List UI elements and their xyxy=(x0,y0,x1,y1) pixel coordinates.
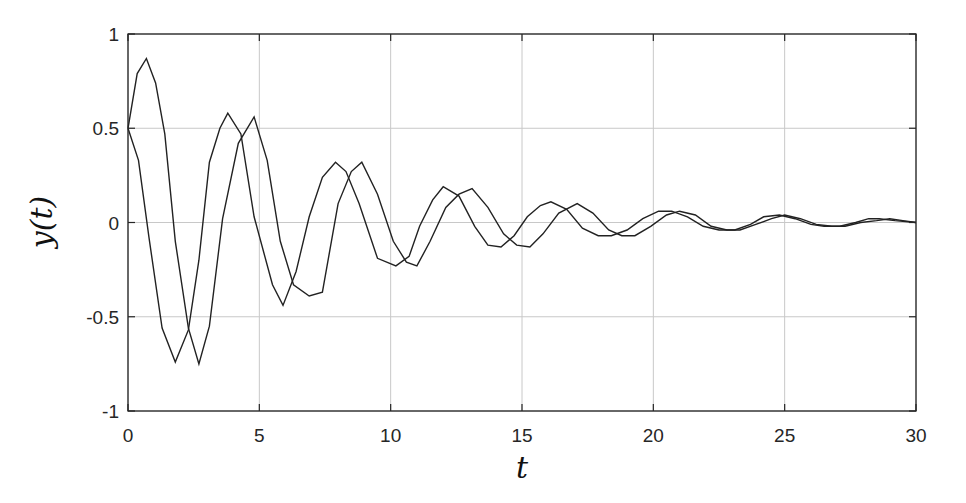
x-tick-label: 20 xyxy=(643,425,664,446)
y-axis-title: y(t) xyxy=(24,196,59,250)
y-tick-label: -1 xyxy=(102,401,119,422)
x-axis-title: t xyxy=(516,450,529,485)
x-tick-label: 15 xyxy=(511,425,532,446)
y-tick-label: -0.5 xyxy=(86,307,119,328)
y-tick-label: 0 xyxy=(108,213,119,234)
y-tick-label: 1 xyxy=(108,24,119,45)
y-tick-label: 0.5 xyxy=(93,118,119,139)
x-tick-label: 0 xyxy=(123,425,134,446)
x-tick-label: 5 xyxy=(254,425,265,446)
grid-lines xyxy=(128,34,916,411)
x-tick-label: 25 xyxy=(774,425,795,446)
x-axis-tick-labels: 051015202530 xyxy=(123,425,927,446)
y-axis-tick-labels: -1-0.500.51 xyxy=(86,24,119,422)
x-tick-label: 10 xyxy=(380,425,401,446)
x-tick-label: 30 xyxy=(905,425,926,446)
chart: 051015202530 -1-0.500.51 t y(t) xyxy=(0,0,966,503)
